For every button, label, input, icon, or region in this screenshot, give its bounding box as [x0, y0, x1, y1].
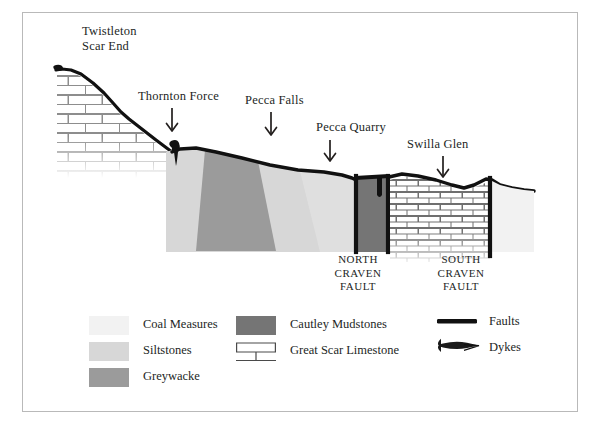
legend-label-dykes: Dykes — [489, 340, 521, 355]
legend-label-coal-measures: Coal Measures — [143, 317, 218, 332]
label-pecca-falls: Pecca Falls — [245, 93, 304, 108]
legend-label-cautley-mudstones: Cautley Mudstones — [290, 317, 387, 332]
legend-swatch-siltstones — [89, 342, 129, 361]
legend-swatch-greywacke — [89, 368, 129, 387]
label-thornton-force: Thornton Force — [138, 89, 219, 104]
legend-label-greywacke: Greywacke — [143, 369, 200, 384]
legend-label-siltstones: Siltstones — [143, 343, 192, 358]
legend-label-great-scar-limestone: Great Scar Limestone — [290, 343, 399, 358]
legend-swatch-coal-measures — [89, 316, 129, 335]
label-pecca-quarry: Pecca Quarry — [316, 120, 386, 135]
label-twistleton-scar-end: Twistleton Scar End — [82, 24, 137, 54]
legend-label-faults: Faults — [489, 314, 520, 329]
label-swilla-glen: Swilla Glen — [407, 137, 469, 152]
figure-canvas: Twistleton Scar End Thornton Force Pecca… — [0, 0, 593, 429]
label-north-craven-fault: NORTH CRAVEN FAULT — [330, 253, 386, 294]
legend-swatch-cautley-mudstones — [236, 316, 276, 335]
label-south-craven-fault: SOUTH CRAVEN FAULT — [433, 253, 489, 294]
